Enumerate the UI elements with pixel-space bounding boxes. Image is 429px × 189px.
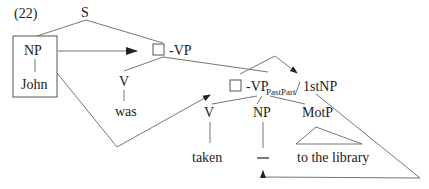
node-taken: taken [192, 150, 222, 165]
node-v-taken: V [204, 105, 214, 120]
edge-vp-lower [163, 57, 268, 72]
node-motp: MotP [302, 105, 333, 120]
node-np-gap: NP [253, 105, 271, 120]
node-to-the-library: to the library [297, 150, 369, 165]
node-np-subject: NP [24, 43, 42, 58]
edge-vp-v [124, 57, 163, 71]
empty-position-box-top [153, 44, 164, 55]
node-vp-top: -VP [169, 43, 192, 58]
edge-s-np [37, 20, 86, 36]
slash-separator [295, 82, 300, 95]
edge-s-vp [86, 20, 163, 43]
edge-lowervp-v [212, 96, 257, 104]
edge-lowervp-motp [270, 96, 305, 104]
edge-lowervp-np [257, 96, 262, 104]
edge-branch-left [240, 56, 275, 74]
empty-position-box-lower [230, 80, 241, 91]
example-number: (22) [14, 6, 38, 22]
movement-arrow-to-1stnp [275, 56, 297, 73]
node-s: S [81, 5, 89, 20]
node-v-was: V [119, 74, 129, 89]
node-1stnp: 1stNP [303, 79, 337, 94]
node-was: was [115, 104, 137, 119]
node-john: John [21, 77, 47, 92]
motp-triangle [296, 127, 362, 144]
syntax-tree-diagram: (22) S NP John -VP V was -VP PastPart 1s… [0, 0, 429, 189]
node-pastpart-subscript: PastPart [266, 87, 296, 97]
